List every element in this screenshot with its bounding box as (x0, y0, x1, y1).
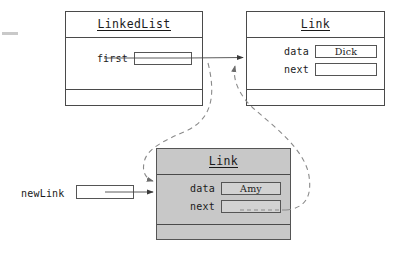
new-link-ref-label: newLink (21, 188, 65, 199)
new-link-ref-slot[interactable] (76, 185, 134, 199)
field-slot-first[interactable] (134, 52, 192, 65)
link-top-title: Link (247, 12, 384, 38)
field-label-data-amy: data (175, 183, 215, 194)
field-slot-next-dick[interactable] (315, 63, 377, 76)
field-label-data-dick: data (269, 46, 309, 57)
field-label-next-dick: next (269, 64, 309, 75)
linked-list-box: LinkedList first (65, 11, 203, 106)
field-value-data-amy: Amy (240, 183, 262, 194)
link-top-title-label: Link (301, 18, 330, 31)
field-label-next-amy: next (175, 201, 215, 212)
field-slot-data-dick[interactable]: Dick (315, 45, 377, 58)
link-new-title: Link (157, 149, 290, 175)
diagram-canvas: LinkedList first Link data Dick n (0, 0, 397, 256)
linked-list-title-label: LinkedList (97, 18, 170, 31)
link-box-new: Link data Amy next (156, 148, 291, 240)
field-row-next-amy: next (175, 199, 293, 214)
link-box-top: Link data Dick next (246, 11, 385, 106)
link-new-title-label: Link (209, 155, 238, 168)
field-slot-next-amy[interactable] (221, 200, 281, 213)
field-row-next-dick: next (269, 62, 387, 77)
margin-rule-mark (2, 32, 18, 35)
field-row-first: first (88, 51, 198, 66)
link-new-fields: data Amy next (157, 175, 290, 225)
linked-list-footer (66, 88, 202, 105)
field-row-data-amy: data Amy (175, 181, 293, 196)
link-top-footer (247, 88, 384, 105)
link-new-footer (157, 223, 290, 239)
linked-list-fields: first (66, 38, 202, 90)
link-top-fields: data Dick next (247, 38, 384, 90)
field-slot-data-amy[interactable]: Amy (221, 182, 281, 195)
linked-list-title: LinkedList (66, 12, 202, 38)
field-row-data-dick: data Dick (269, 44, 387, 59)
field-label-first: first (88, 53, 128, 64)
field-value-data-dick: Dick (335, 46, 358, 57)
